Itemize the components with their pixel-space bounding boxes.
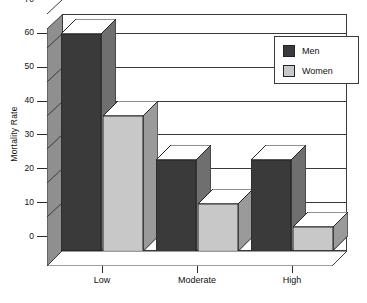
x-tick-mark: [292, 266, 293, 273]
bar-high-women: [293, 212, 348, 251]
y-tick-label: 70: [8, 0, 34, 3]
y-tick-mark: [37, 202, 47, 203]
legend-item-women: Women: [283, 64, 333, 78]
x-tick-mark: [102, 266, 103, 273]
y-tick-mark: [37, 33, 47, 34]
bar-3d-body: [293, 212, 348, 251]
y-tick-label: 0: [8, 232, 34, 241]
x-tick-label-low: Low: [62, 275, 142, 285]
y-tick-mark: [37, 134, 47, 135]
y-tick-mark: [37, 101, 47, 102]
legend-label-men: Men: [302, 47, 320, 56]
legend: Men Women: [274, 36, 359, 84]
y-tick-mark: [37, 236, 47, 237]
legend-label-women: Women: [302, 67, 333, 76]
y-tick-label: 30: [8, 130, 34, 139]
bar-low-women: [103, 101, 158, 251]
legend-item-men: Men: [283, 44, 320, 58]
floor: [47, 251, 347, 266]
x-tick-label-high: High: [252, 275, 332, 285]
y-tick-mark: [37, 67, 47, 68]
y-tick-label: 60: [8, 28, 34, 37]
y-tick-label: 40: [8, 96, 34, 105]
y-tick-mark: [37, 168, 47, 169]
y-tick-label: 10: [8, 198, 34, 207]
x-tick-mark: [197, 266, 198, 273]
gridline-depth-connector: [47, 0, 63, 14]
bar-chart: Mortality Rate 010203040506070 Men Women…: [0, 0, 367, 303]
y-tick-label: 50: [8, 62, 34, 71]
legend-swatch-women: [283, 65, 295, 77]
legend-swatch-men: [283, 45, 295, 57]
y-tick-label: 20: [8, 164, 34, 173]
bar-3d-body: [103, 101, 158, 251]
bar-3d-body: [198, 189, 253, 251]
bar-moderate-women: [198, 189, 253, 251]
x-tick-label-moderate: Moderate: [157, 275, 237, 285]
